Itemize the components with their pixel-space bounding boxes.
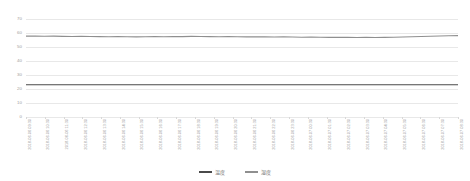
legend-item[interactable]: 温度 — [199, 170, 225, 175]
x-axis-tick-label: 2018-06-06 19:30 — [215, 119, 219, 150]
y-axis-tick-label: 30 — [4, 73, 22, 77]
x-axis-tick-label: 2018-06-07 06:30 — [422, 119, 426, 150]
x-axis-tick-label: 2018-06-07 00:30 — [309, 119, 313, 150]
x-axis-tick-label: 2018-06-06 12:30 — [84, 119, 88, 150]
x-axis-tick-label: 2018-06-06 13:30 — [103, 119, 107, 150]
x-axis-tick-label: 2018-06-06 15:30 — [140, 119, 144, 150]
x-axis-tick-label: 2018-06-07 04:30 — [384, 119, 388, 150]
x-axis-tick-label: 2018-06-06 23:30 — [291, 119, 295, 150]
x-axis-tick-label: 2018-06-07 07:30 — [441, 119, 445, 150]
legend-swatch — [245, 171, 258, 173]
x-axis-tick-label: 2018-06-06 16:30 — [159, 119, 163, 150]
legend-swatch — [199, 171, 212, 173]
y-axis-tick-label: 10 — [4, 101, 22, 105]
x-axis-tick-label: 2018-06-07 05:30 — [403, 119, 407, 150]
x-axis-tick-label: 2018-06-07 01:30 — [328, 119, 332, 150]
x-axis-tick-label: 2018-06-06 18:30 — [197, 119, 201, 150]
y-axis-tick-label: 60 — [4, 31, 22, 35]
y-axis-tick-label: 40 — [4, 59, 22, 63]
x-axis-tick-label: 2018-06-07 02:30 — [347, 119, 351, 150]
series-lines — [26, 19, 458, 117]
line-chart: 010203040506070 2018-06-06 09:302018-06-… — [0, 0, 470, 181]
x-axis-tick-label: 2018-06-06 22:30 — [272, 119, 276, 150]
legend-label: 湿度 — [261, 170, 271, 175]
y-axis-tick-label: 50 — [4, 45, 22, 49]
y-axis-tick-label: 0 — [4, 115, 22, 119]
x-axis-tick-label: 2018-06-06 17:30 — [178, 119, 182, 150]
x-axis-tick-label: 2018-06-06 11:30 — [65, 119, 69, 149]
y-axis-tick-label: 70 — [4, 17, 22, 21]
x-axis-labels: 2018-06-06 09:302018-06-06 10:302018-06-… — [26, 117, 458, 163]
x-axis-tick-label: 2018-06-07 03:30 — [366, 119, 370, 150]
legend-item[interactable]: 湿度 — [245, 170, 271, 175]
legend-label: 温度 — [215, 170, 225, 175]
y-axis-tick-label: 20 — [4, 87, 22, 91]
x-axis-tick-label: 2018-06-06 10:30 — [46, 119, 50, 150]
x-axis-tick-label: 2018-06-06 09:30 — [28, 119, 32, 150]
plot-area: 010203040506070 — [26, 19, 458, 117]
chart-legend: 温度湿度 — [0, 166, 470, 178]
x-axis-tick-label: 2018-06-06 20:30 — [234, 119, 238, 150]
x-axis-tick-label: 2018-06-06 14:30 — [122, 119, 126, 150]
x-axis-tick-label: 2018-06-06 21:30 — [253, 119, 257, 150]
series-line — [26, 36, 458, 38]
x-axis-tick-label: 2018-06-07 08:30 — [460, 119, 464, 150]
